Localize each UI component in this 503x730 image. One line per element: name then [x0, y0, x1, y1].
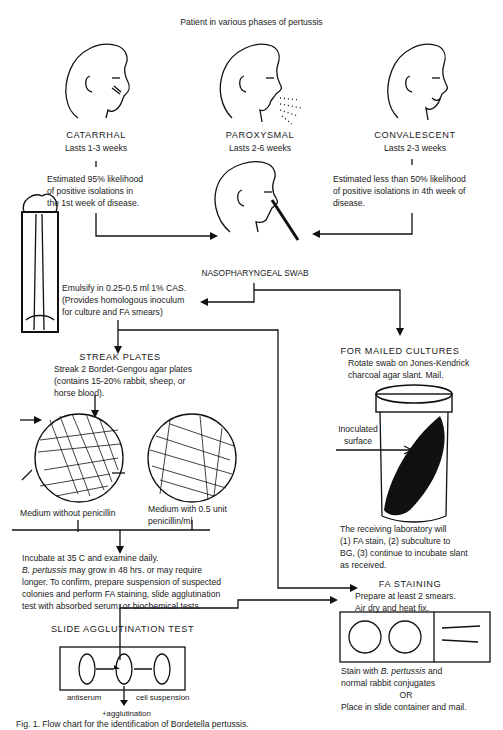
head-catarrhal-icon — [66, 44, 130, 118]
incubate-line-3: longer. To confirm, prepare suspension o… — [22, 577, 221, 588]
mailed-line-1: Rotate swab on Jones-Kendrick — [348, 358, 469, 369]
convalescent-note-2: of positive isolations in 4th week of — [333, 186, 465, 197]
swab-label: NASOPHARYNGEAL SWAB — [190, 268, 320, 279]
incubate-line-1: Incubate at 35 C and examine daily. — [22, 553, 158, 564]
fa-stain-line-1: Stain with B. pertussis and — [341, 666, 442, 677]
convalescent-note-3: disease. — [333, 198, 365, 209]
fa-line-2: Air dry and heat fix. — [355, 603, 429, 614]
mailed-line-2: charcoal agar slant. Mail. — [348, 370, 444, 381]
receiving-line-4: as received. — [340, 560, 386, 571]
diagram-title: Patient in various phases of pertussis — [0, 17, 503, 28]
plate-right-label-2: penicillin/ml — [148, 516, 192, 527]
receiving-line-2: (1) FA stain, (2) subculture to — [340, 536, 450, 547]
fa-or: OR — [341, 690, 471, 701]
phase-convalescent-name: CONVALESCENT — [360, 130, 470, 141]
head-paroxysmal-icon — [220, 44, 302, 124]
fa-heading: FA STAINING — [350, 579, 470, 590]
emulsify-line-1: Emulsify in 0.25-0.5 ml 1% CAS. — [62, 283, 186, 294]
plate-right-label-1: Medium with 0.5 unit — [148, 504, 227, 515]
incubate-line-4: colonies and perform FA staining, slide … — [22, 589, 220, 600]
inoculated-label-2: surface — [330, 436, 386, 447]
fa-mail: Place in slide container and mail. — [341, 702, 467, 713]
emulsify-line-2: (Provides homologous inoculum — [62, 295, 184, 306]
catarrhal-note-2: of positive isolations in — [47, 186, 133, 197]
inoculated-label-1: Inoculated — [330, 424, 386, 435]
phase-catarrhal-duration: Lasts 1-3 weeks — [46, 143, 146, 154]
catarrhal-note-3: the 1st week of disease. — [47, 198, 139, 209]
fa-stain-line-2: normal rabbit conjugates — [341, 678, 435, 689]
species-name: B. pertussis — [22, 565, 67, 575]
mailed-heading: FOR MAILED CULTURES — [330, 346, 470, 357]
plate-left-label: Medium without penicillin — [20, 508, 116, 519]
antiserum-label: antiserum — [67, 692, 101, 703]
catarrhal-note-1: Estimated 95% likelihood — [47, 174, 143, 185]
streak-line-3: horse blood). — [54, 388, 104, 399]
phase-convalescent-duration: Lasts 2-3 weeks — [360, 143, 470, 154]
head-swab-icon — [215, 162, 298, 240]
head-convalescent-icon — [388, 44, 448, 120]
emulsify-line-3: for culture and FA smears) — [62, 307, 163, 318]
phase-catarrhal-name: CATARRHAL — [46, 130, 146, 141]
phase-paroxysmal-duration: Lasts 2-6 weeks — [210, 143, 310, 154]
agglutination-heading: SLIDE AGGLUTINATION TEST — [40, 624, 205, 635]
convalescent-note-1: Estimated less than 50% likelihood — [333, 174, 466, 185]
incubate-line-5: test with absorbed serum, or biochemical… — [22, 601, 201, 612]
receiving-line-3: BG, (3) continue to incubate slant — [340, 548, 468, 559]
fa-line-1: Prepare at least 2 smears. — [355, 591, 456, 602]
phase-paroxysmal-name: PAROXYSMAL — [210, 130, 310, 141]
streak-line-2: (contains 15-20% rabbit, sheep, or — [54, 376, 185, 387]
streak-heading: STREAK PLATES — [60, 352, 180, 363]
cell-suspension-label: cell suspension — [136, 692, 189, 703]
streak-line-1: Streak 2 Bordet-Gengou agar plates — [54, 364, 192, 375]
figure-caption: Fig. 1. Flow chart for the identificatio… — [16, 719, 249, 730]
receiving-line-1: The receiving laboratory will — [340, 524, 447, 535]
agglutination-result-label: +agglutination — [102, 708, 151, 719]
incubate-line-2: B. pertussis may grow in 48 hrs. or may … — [22, 565, 202, 576]
